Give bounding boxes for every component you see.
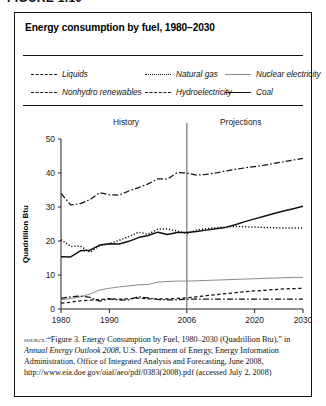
svg-text:2020: 2020 <box>245 315 264 325</box>
legend-item-hydroelectricity: Hydroelectricity <box>145 83 232 96</box>
svg-text:1990: 1990 <box>100 315 119 325</box>
legend-item-coal: Coal <box>225 83 273 96</box>
legend-label-hydroelectricity: Hydroelectricity <box>176 88 232 97</box>
figure-frame: Energy consumption by fuel, 1980–2030 Li… <box>14 12 312 397</box>
svg-text:2006: 2006 <box>178 315 197 325</box>
legend-item-nonhydro-renewables: Nonhydro renewables <box>31 83 142 96</box>
legend-divider <box>23 105 303 106</box>
legend-swatch-liquids <box>31 70 57 79</box>
svg-text:10: 10 <box>46 270 56 280</box>
chart-legend: Liquids Nonhydro renewables Natural gas … <box>23 63 303 101</box>
source-prefix: source: <box>24 335 47 344</box>
chart-plot-area: Quadrillion Btu History Projections 0102… <box>15 113 311 331</box>
svg-text:40: 40 <box>46 168 56 178</box>
svg-text:30: 30 <box>46 202 56 212</box>
page-title: Energy consumption by fuel, 1980–2030 <box>25 22 215 33</box>
legend-item-natural-gas: Natural gas <box>145 65 218 78</box>
svg-text:2030: 2030 <box>294 315 311 325</box>
svg-text:20: 20 <box>46 236 56 246</box>
legend-label-coal: Coal <box>256 88 273 97</box>
legend-label-natural-gas: Natural gas <box>176 70 218 79</box>
series-nuclear-electricity <box>61 277 303 299</box>
svg-text:1980: 1980 <box>52 315 71 325</box>
figure-label: FIGURE 1.10 <box>7 0 82 5</box>
legend-label-nonhydro-renewables: Nonhydro renewables <box>62 88 142 97</box>
svg-text:0: 0 <box>50 304 55 314</box>
series-hydroelectricity <box>61 296 303 301</box>
legend-label-liquids: Liquids <box>62 70 88 79</box>
legend-swatch-nuclear-electricity <box>225 70 251 79</box>
series-natural-gas <box>61 226 303 252</box>
source-italic-title: Annual Energy Outlook 2008 <box>24 346 119 355</box>
source-line1: “Figure 3. Energy Consumption by Fuel, 1… <box>47 335 290 344</box>
legend-swatch-hydroelectricity <box>145 88 171 97</box>
legend-item-nuclear-electricity: Nuclear electricity <box>225 65 321 78</box>
legend-swatch-coal <box>225 88 251 97</box>
title-divider <box>23 55 303 56</box>
series-liquids <box>61 158 303 205</box>
energy-consumption-line-chart: 0102030405019801990200620202030 <box>15 113 311 331</box>
legend-label-nuclear-electricity: Nuclear electricity <box>256 70 321 79</box>
legend-swatch-natural-gas <box>145 70 171 79</box>
legend-item-liquids: Liquids <box>31 65 88 78</box>
svg-text:50: 50 <box>46 134 56 144</box>
source-note: source:“Figure 3. Energy Consumption by … <box>24 335 302 379</box>
legend-swatch-nonhydro-renewables <box>31 88 57 97</box>
